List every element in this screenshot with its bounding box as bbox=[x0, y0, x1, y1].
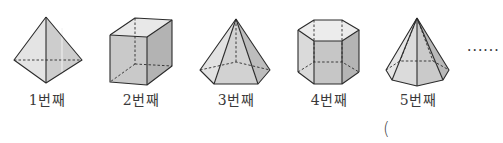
shape-2-prism bbox=[110, 18, 172, 85]
shape-4-label: 4번째 bbox=[311, 89, 347, 109]
shape-3-hexagonal-pyramid bbox=[200, 19, 270, 84]
shape-2-label: 2번째 bbox=[123, 89, 159, 109]
shape-1-label: 1번째 bbox=[29, 89, 65, 109]
shape-5-heptagonal-pyramid bbox=[386, 18, 449, 86]
shape-4-hexagonal-prism bbox=[298, 20, 359, 84]
shape-3-label: 3번째 bbox=[218, 89, 254, 109]
continuation-ellipsis: ······ bbox=[467, 42, 500, 58]
polyhedra-drawing: .e { stroke: #2b2b2b; stroke-width: 1.1;… bbox=[0, 0, 503, 143]
shape-5-label: 5번째 bbox=[400, 89, 436, 109]
polyhedra-sequence-figure: .e { stroke: #2b2b2b; stroke-width: 1.1;… bbox=[0, 0, 503, 143]
answer-blank-paren: ( bbox=[383, 119, 390, 139]
shape-1-pyramid bbox=[14, 17, 82, 83]
